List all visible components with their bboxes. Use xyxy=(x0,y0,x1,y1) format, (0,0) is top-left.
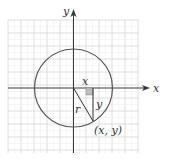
vertical-leg-label: y xyxy=(95,98,103,111)
radius-label: r xyxy=(75,103,81,116)
x-axis-label: x xyxy=(153,82,160,95)
axes xyxy=(8,9,150,153)
y-axis-label: y xyxy=(62,5,70,18)
horizontal-leg-label: x xyxy=(82,75,89,88)
right-angle-marker xyxy=(86,88,93,95)
point-label: (x, y) xyxy=(94,124,122,137)
circle-diagram: x y x y r (x, y) xyxy=(0,0,170,166)
